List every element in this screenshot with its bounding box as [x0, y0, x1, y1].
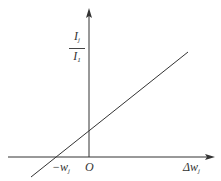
x-intercept-label: −wj	[52, 160, 70, 175]
y-axis-label: Ij I1	[69, 30, 85, 67]
origin-label: O	[85, 160, 94, 175]
data-line	[31, 52, 188, 177]
y-label-denominator: I1	[69, 50, 85, 67]
chart-canvas	[0, 0, 221, 181]
y-label-numerator: Ij	[69, 30, 85, 47]
x-axis-label: Δwj	[183, 160, 200, 175]
